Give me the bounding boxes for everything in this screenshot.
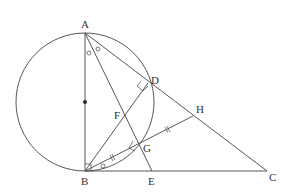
label-H: H	[196, 103, 204, 115]
label-G: G	[143, 142, 151, 154]
label-B: B	[81, 175, 88, 187]
angle-mark-1	[87, 51, 91, 55]
segment-BH	[85, 116, 193, 171]
segment-AE	[85, 33, 152, 171]
label-D: D	[151, 74, 159, 86]
label-C: C	[269, 171, 276, 183]
label-A: A	[81, 18, 89, 30]
angle-mark-2	[96, 47, 100, 51]
angle-mark-B	[101, 164, 105, 168]
segment-AC	[85, 33, 267, 171]
geometry-diagram: A B C D E F G H	[0, 0, 293, 196]
label-E: E	[148, 175, 155, 187]
segment-BD	[85, 83, 148, 171]
label-F: F	[114, 109, 120, 121]
